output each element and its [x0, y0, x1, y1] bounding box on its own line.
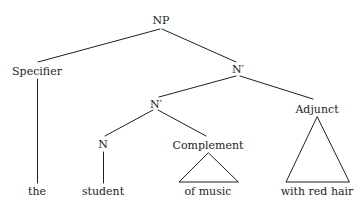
branch-nbar-upper-to-adjunct	[240, 76, 313, 99]
node-label-complement: Complement	[173, 139, 245, 152]
branch-nbar-lower-to-complement	[158, 110, 206, 136]
triangle-adjunct	[286, 117, 349, 182]
branch-np-to-nbar-upper	[162, 29, 236, 62]
branch-nbar-upper-to-nbar-lower	[159, 76, 236, 97]
node-label-adjunct: Adjunct	[294, 103, 339, 116]
node-label-specifier: Specifier	[12, 65, 63, 78]
node-label-nbar-upper: N′	[232, 63, 245, 76]
branch-np-to-specifier	[38, 29, 160, 62]
terminal-label-with-red-hair: with red hair	[281, 185, 354, 198]
node-label-head-n: N	[98, 138, 108, 151]
syntax-tree-canvas: NP Specifier N′ N′ N Complement Adjunct …	[0, 0, 363, 206]
node-label-np: NP	[152, 14, 170, 27]
syntax-tree-figure: NP Specifier N′ N′ N Complement Adjunct …	[0, 0, 363, 206]
terminal-label-student: student	[82, 185, 125, 198]
branch-nbar-lower-to-head	[105, 110, 153, 136]
node-label-nbar-lower: N′	[150, 98, 163, 111]
triangle-complement	[179, 153, 238, 182]
terminal-label-the: the	[28, 185, 46, 198]
terminal-label-of-music: of music	[184, 185, 231, 198]
